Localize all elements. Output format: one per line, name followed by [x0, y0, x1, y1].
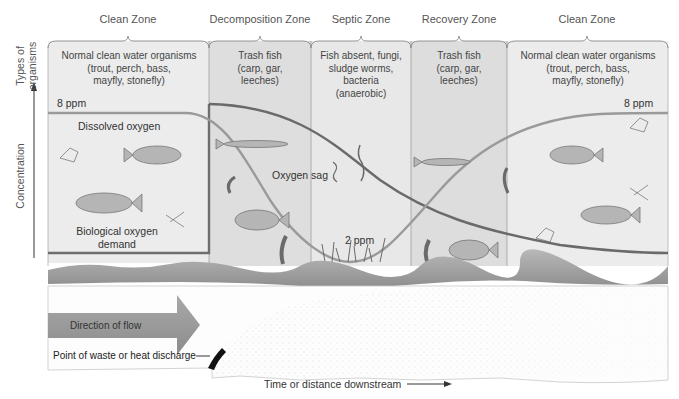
- zone-organisms-decomposition: Trash fish (carp, gar, leeches): [210, 50, 310, 88]
- x-axis-label: Time or distance downstream: [264, 378, 401, 390]
- direction-of-flow-label: Direction of flow: [70, 320, 141, 331]
- zone-organisms-clean-upstream: Normal clean water organisms (trout, per…: [50, 50, 208, 88]
- discharge-point-label: Point of waste or heat discharge: [53, 350, 196, 361]
- zone-organisms-recovery: Trash fish (carp, gar, leeches): [412, 50, 506, 88]
- ppm-label-left: 8 ppm: [57, 97, 86, 109]
- y-axis-label-organisms: Types of organisms: [14, 36, 38, 96]
- zone-title-decomposition: Decomposition Zone: [205, 13, 315, 25]
- zone-title-recovery: Recovery Zone: [414, 13, 504, 25]
- ppm-label-right: 8 ppm: [624, 97, 653, 109]
- zone-title-septic: Septic Zone: [321, 13, 401, 25]
- y-axis-label-concentration: Concentration: [14, 136, 26, 216]
- dissolved-oxygen-label: Dissolved oxygen: [78, 120, 160, 132]
- zone-organisms-clean-downstream: Normal clean water organisms (trout, per…: [508, 50, 668, 88]
- oxygen-sag-label: Oxygen sag: [272, 169, 328, 181]
- zone-title-clean-downstream: Clean Zone: [547, 13, 627, 25]
- zone-title-clean-upstream: Clean Zone: [88, 13, 168, 25]
- ppm-label-min: 2 ppm: [345, 234, 374, 246]
- zone-organisms-septic: Fish absent, fungi, sludge worms, bacter…: [312, 50, 410, 100]
- bod-label: Biological oxygen demand: [70, 225, 164, 251]
